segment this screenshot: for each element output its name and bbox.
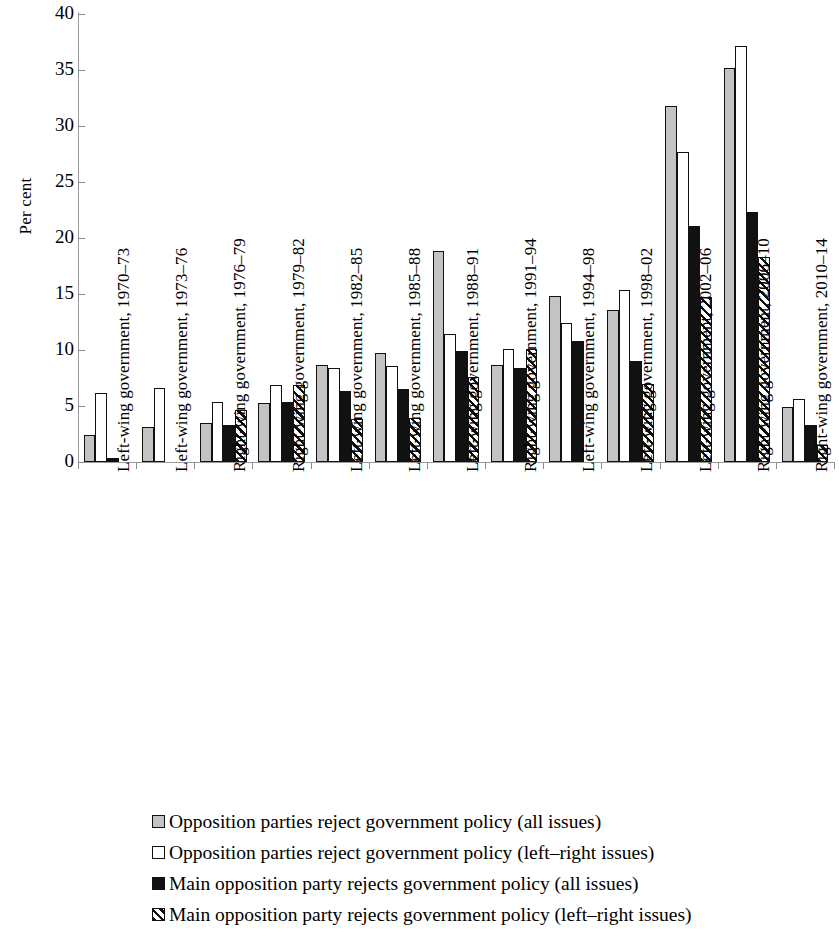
- bar: [677, 152, 689, 462]
- bar: [433, 251, 445, 462]
- bar: [95, 393, 107, 462]
- bar: [200, 423, 212, 462]
- bar: [619, 290, 631, 462]
- bar: [607, 310, 619, 462]
- x-axis-tick-mark: [485, 462, 486, 469]
- y-axis-tick-mark: [78, 462, 85, 463]
- bar: [212, 402, 224, 462]
- legend-item: Opposition parties reject government pol…: [152, 837, 839, 868]
- y-axis-tick: 30: [0, 126, 88, 127]
- y-axis-tick: 25: [0, 182, 88, 183]
- bar: [375, 353, 387, 462]
- bar: [665, 106, 677, 462]
- x-axis-line: [78, 462, 834, 463]
- legend-item-label: Main opposition party rejects government…: [169, 873, 639, 895]
- y-axis-tick-label: 0: [28, 450, 74, 472]
- legend-item-label: Opposition parties reject government pol…: [169, 811, 601, 833]
- y-axis-tick: 10: [0, 350, 88, 351]
- bar: [503, 349, 515, 462]
- chart-legend: Opposition parties reject government pol…: [152, 806, 839, 930]
- y-axis-tick: 15: [0, 294, 88, 295]
- x-axis-category-label: Left-wing government, 1988–91: [464, 172, 482, 472]
- x-axis-category-label: Left-wing government, 1973–76: [173, 172, 191, 472]
- x-axis-tick-mark: [78, 462, 79, 469]
- x-axis-tick-mark: [834, 462, 835, 469]
- y-axis-tick: 5: [0, 406, 88, 407]
- x-axis-category-label: Right-wing government, 2010–14: [813, 172, 831, 472]
- bar: [782, 407, 794, 462]
- bar: [84, 435, 96, 462]
- bar: [491, 365, 503, 462]
- x-axis-tick-mark: [660, 462, 661, 469]
- y-axis-tick: 40: [0, 14, 88, 15]
- bar: [793, 399, 805, 462]
- legend-item: Main opposition party rejects government…: [152, 868, 839, 899]
- x-axis-tick-mark: [776, 462, 777, 469]
- legend-item-label: Main opposition party rejects government…: [169, 904, 692, 926]
- x-axis-tick-mark: [369, 462, 370, 469]
- y-axis-tick: 35: [0, 70, 88, 71]
- y-axis-tick-label: 5: [28, 394, 74, 416]
- legend-item: Main opposition party rejects government…: [152, 899, 839, 930]
- x-axis-category-label: Left-wing government, 1982–85: [348, 172, 366, 472]
- y-axis-tick-label: 20: [28, 226, 74, 248]
- bar: [735, 46, 747, 462]
- legend-item: Opposition parties reject government pol…: [152, 806, 839, 837]
- x-axis-tick-mark: [311, 462, 312, 469]
- x-axis-category-label: Right-wing government, 1976–79: [231, 172, 249, 472]
- x-axis-tick-mark: [252, 462, 253, 469]
- x-axis-category-label: Left-wing government, 1970–73: [115, 172, 133, 472]
- x-axis-category-label: Right-wing government, 2006–10: [755, 172, 773, 472]
- x-axis-tick-mark: [427, 462, 428, 469]
- bar: [444, 334, 456, 462]
- legend-swatch-icon: [152, 815, 165, 828]
- legend-item-label: Opposition parties reject government pol…: [169, 842, 654, 864]
- y-axis-tick-label: 30: [28, 114, 74, 136]
- bar: [270, 385, 282, 462]
- bar: [328, 368, 340, 462]
- x-axis-tick-mark: [194, 462, 195, 469]
- legend-swatch-icon: [152, 877, 165, 890]
- y-axis-tick-label: 15: [28, 282, 74, 304]
- y-axis-title: Per cent: [16, 146, 36, 266]
- bar: [724, 68, 736, 462]
- x-axis-category-label: Right-wing government, 1991–94: [522, 172, 540, 472]
- x-axis-tick-mark: [601, 462, 602, 469]
- y-axis-tick-label: 10: [28, 338, 74, 360]
- legend-swatch-icon: [152, 908, 165, 921]
- bar: [154, 388, 166, 462]
- x-axis-tick-mark: [718, 462, 719, 469]
- x-axis-category-label: Left-wing government, 1985–88: [406, 172, 424, 472]
- x-axis-tick-mark: [543, 462, 544, 469]
- y-axis-tick-label: 35: [28, 58, 74, 80]
- x-axis-category-label: Left-wing government, 2002–06: [697, 172, 715, 472]
- bar: [549, 296, 561, 462]
- plot-area: [78, 14, 833, 462]
- bar: [561, 323, 573, 462]
- bar: [386, 366, 398, 462]
- x-axis-tick-mark: [136, 462, 137, 469]
- y-axis-tick-label: 25: [28, 170, 74, 192]
- x-axis-category-label: Left-wing government, 1994–98: [580, 172, 598, 472]
- bar-chart-figure: Per cent 0510152025303540 Left-wing gove…: [0, 0, 839, 943]
- x-axis-category-label: Right-wing government, 1979–82: [290, 172, 308, 472]
- bar: [142, 427, 154, 462]
- y-axis-tick: 20: [0, 238, 88, 239]
- legend-swatch-icon: [152, 846, 165, 859]
- bar: [316, 365, 328, 462]
- y-axis-tick: 0: [0, 462, 88, 463]
- x-axis-category-label: Left-wing government, 1998–02: [638, 172, 656, 472]
- bar: [258, 403, 270, 462]
- y-axis-tick-label: 40: [28, 2, 74, 24]
